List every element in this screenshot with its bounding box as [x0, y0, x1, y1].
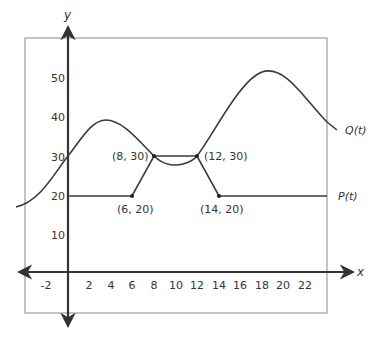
annotation-8-30: (8, 30) [112, 150, 149, 163]
y-tick: 40 [51, 111, 65, 124]
annotation-12-30: (12, 30) [204, 150, 248, 163]
annotation-14-20: (14, 20) [200, 203, 244, 216]
x-tick: 4 [108, 279, 115, 292]
chart: x y -2 2 4 6 8 10 12 14 16 18 20 22 10 2… [0, 0, 379, 341]
x-tick: 22 [298, 279, 312, 292]
x-tick: 10 [169, 279, 183, 292]
point-6-20 [130, 194, 134, 198]
x-tick: 12 [190, 279, 204, 292]
series-p-label: P(t) [338, 190, 358, 203]
y-axis-label: y [63, 8, 72, 22]
point-14-20 [217, 194, 221, 198]
annotation-6-20: (6, 20) [117, 203, 154, 216]
series-q-line [16, 71, 337, 207]
x-tick: 6 [129, 279, 136, 292]
x-tick: 20 [276, 279, 290, 292]
x-tick: 8 [151, 279, 158, 292]
x-axis-label: x [356, 265, 365, 279]
point-12-30 [195, 154, 199, 158]
point-8-30 [152, 154, 156, 158]
series-p-line [68, 156, 327, 196]
series-q-label: Q(t) [345, 124, 367, 137]
y-tick: 10 [51, 229, 65, 242]
y-tick-labels: 10 20 30 40 50 [51, 72, 65, 242]
x-tick: 2 [86, 279, 93, 292]
x-tick: 16 [233, 279, 247, 292]
x-tick: -2 [41, 279, 52, 292]
y-tick: 50 [51, 72, 65, 85]
chart-svg: x y -2 2 4 6 8 10 12 14 16 18 20 22 10 2… [0, 0, 379, 341]
x-tick: 14 [212, 279, 226, 292]
y-tick: 20 [51, 190, 65, 203]
x-tick-labels: -2 2 4 6 8 10 12 14 16 18 20 22 [41, 279, 312, 292]
x-tick: 18 [255, 279, 269, 292]
